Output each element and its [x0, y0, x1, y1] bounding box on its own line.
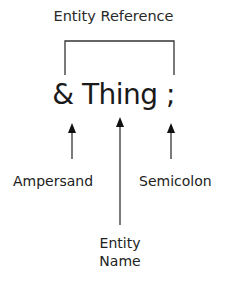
semicolon-label: Semicolon: [139, 173, 212, 189]
ampersand-arrow-head: [68, 123, 76, 133]
entity-name-arrow-head: [116, 117, 124, 127]
entity-expression: & Thing ;: [0, 78, 227, 111]
entity-name-label-line1: Entity: [96, 234, 144, 252]
semicolon-symbol: ;: [166, 78, 175, 111]
entity-name-label: Entity Name: [96, 234, 144, 270]
semicolon-arrow-head: [167, 123, 175, 133]
reference-bracket: [65, 41, 174, 75]
entity-name-text: Thing: [82, 78, 158, 111]
ampersand-symbol: &: [52, 78, 73, 111]
entity-name-label-line2: Name: [96, 252, 144, 270]
ampersand-label: Ampersand: [13, 173, 93, 189]
